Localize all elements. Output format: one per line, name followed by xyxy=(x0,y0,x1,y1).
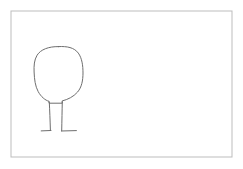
border-frame xyxy=(11,11,232,157)
trunk-right-line-path xyxy=(62,102,63,131)
tree-sketch-svg xyxy=(0,0,243,169)
sketch-canvas xyxy=(0,0,243,169)
